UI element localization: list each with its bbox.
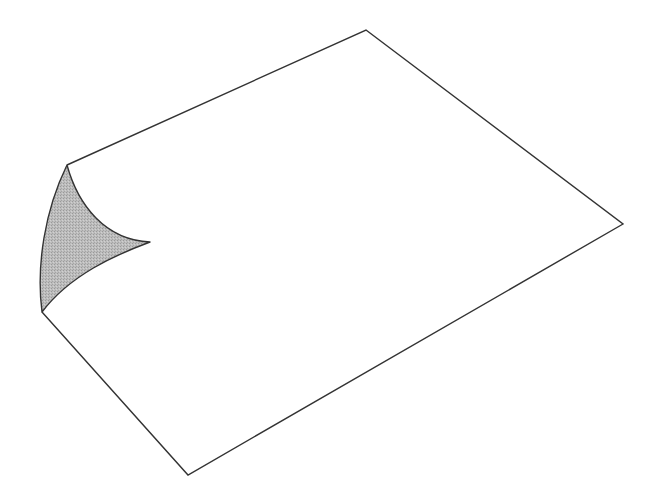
- page-outline: [42, 30, 623, 475]
- curled-page-diagram: [0, 0, 660, 503]
- page-curl: [40, 165, 150, 312]
